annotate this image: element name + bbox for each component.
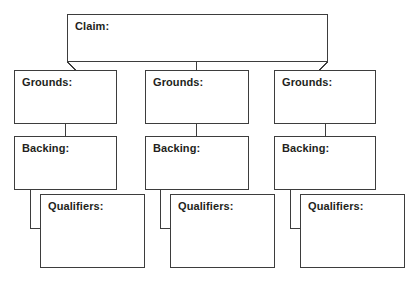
grounds-label-2: Grounds: — [153, 76, 203, 89]
grounds-label-1: Grounds: — [22, 76, 72, 89]
connector-backing-to-qualifiers-2 — [161, 190, 171, 229]
connector-claim-to-grounds-1 — [68, 62, 76, 70]
backing-box-1[interactable]: Backing: — [14, 136, 117, 190]
backing-label-2: Backing: — [153, 142, 200, 155]
grounds-label-3: Grounds: — [282, 76, 332, 89]
qualifiers-box-2[interactable]: Qualifiers: — [170, 194, 275, 268]
grounds-box-2[interactable]: Grounds: — [145, 70, 249, 124]
grounds-box-3[interactable]: Grounds: — [274, 70, 376, 124]
qualifiers-label-1: Qualifiers: — [48, 200, 104, 213]
backing-box-2[interactable]: Backing: — [145, 136, 249, 190]
qualifiers-box-1[interactable]: Qualifiers: — [40, 194, 145, 268]
backing-box-3[interactable]: Backing: — [274, 136, 376, 190]
connector-backing-to-qualifiers-1 — [31, 190, 41, 229]
backing-label-1: Backing: — [22, 142, 69, 155]
connector-backing-to-qualifiers-3 — [291, 190, 301, 229]
qualifiers-label-3: Qualifiers: — [308, 200, 364, 213]
qualifiers-box-3[interactable]: Qualifiers: — [300, 194, 405, 268]
qualifiers-label-2: Qualifiers: — [178, 200, 234, 213]
claim-label: Claim: — [75, 20, 109, 33]
backing-label-3: Backing: — [282, 142, 329, 155]
connector-claim-to-grounds-3 — [320, 62, 328, 70]
grounds-box-1[interactable]: Grounds: — [14, 70, 117, 124]
claim-box[interactable]: Claim: — [67, 14, 328, 62]
toulmin-diagram: Claim: Grounds: Grounds: Grounds: Backin… — [0, 0, 418, 283]
